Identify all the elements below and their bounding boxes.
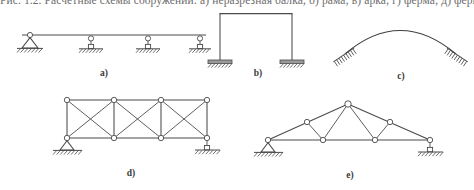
truss-node — [204, 97, 209, 102]
roller-block — [427, 147, 432, 151]
truss-node — [111, 135, 116, 140]
truss-node — [204, 135, 209, 140]
diagram-e-roof-truss: e) — [254, 101, 443, 181]
ground-hatching — [445, 49, 467, 67]
roller-block — [88, 44, 93, 48]
figure-label-d: d) — [127, 168, 135, 179]
roller-block — [145, 44, 150, 48]
figure-label-a: a) — [100, 68, 108, 79]
ground-hatching — [17, 49, 42, 53]
web-right-2 — [375, 122, 390, 140]
hinge-node — [197, 36, 202, 41]
hinge-node — [88, 36, 93, 41]
figure-label-e: e) — [346, 170, 353, 181]
roller-block — [204, 146, 209, 150]
support-fixed-inclined-c2 — [444, 48, 468, 67]
truss-node — [372, 137, 377, 142]
web-left-1 — [307, 122, 323, 140]
truss-node — [111, 97, 116, 102]
pin-triangle — [60, 141, 74, 150]
truss-node — [158, 97, 163, 102]
truss-node — [320, 137, 325, 142]
support-pin-d1 — [53, 141, 82, 155]
figure-page: Рис. 1.2. Расчётные схемы сооружений: а)… — [0, 0, 474, 190]
ground-hatching — [189, 49, 209, 53]
ground-hatching — [136, 49, 160, 53]
diagram-a-continuous-beam: a) — [17, 32, 211, 79]
support-roller-e2 — [418, 143, 443, 157]
ground-hatching — [195, 150, 220, 154]
diagram-c-arch: c) — [333, 31, 467, 83]
support-pin-e1 — [254, 143, 283, 157]
ground-hatching — [208, 64, 232, 68]
diagram-b-portal-frame: b) — [208, 14, 304, 79]
truss-node — [158, 135, 163, 140]
support-fixed-inclined-c1 — [333, 48, 357, 67]
pin-triangle — [261, 143, 275, 152]
support-roller-a4 — [189, 36, 211, 53]
fixed-base-plate — [208, 60, 232, 64]
support-fixed-b1 — [208, 60, 232, 68]
ground-hatching — [53, 151, 82, 155]
diagram-d-parallel-chord-truss: d) — [53, 97, 220, 179]
truss-node — [427, 137, 432, 142]
pin-triangle — [22, 38, 38, 48]
figure-label-b: b) — [254, 68, 262, 79]
support-roller-d2 — [195, 141, 220, 155]
support-roller-a2 — [79, 36, 103, 53]
support-fixed-b2 — [280, 60, 304, 68]
ground-hatching — [79, 49, 103, 53]
structural-schematics-figure: a) — [0, 0, 474, 190]
ground-hatching — [334, 49, 356, 67]
truss-node-apex — [345, 101, 351, 107]
truss-node — [304, 119, 309, 124]
ground-hatching — [254, 153, 283, 157]
roller-block — [197, 44, 202, 48]
arch-member — [345, 31, 456, 55]
ground-hatching — [418, 152, 443, 156]
hinge-node — [145, 36, 150, 41]
truss-node — [64, 97, 69, 102]
truss-node — [387, 119, 392, 124]
support-roller-a3 — [136, 36, 160, 53]
fixed-base-plate — [280, 60, 304, 64]
figure-label-c: c) — [397, 71, 404, 82]
ground-hatching — [280, 64, 304, 68]
